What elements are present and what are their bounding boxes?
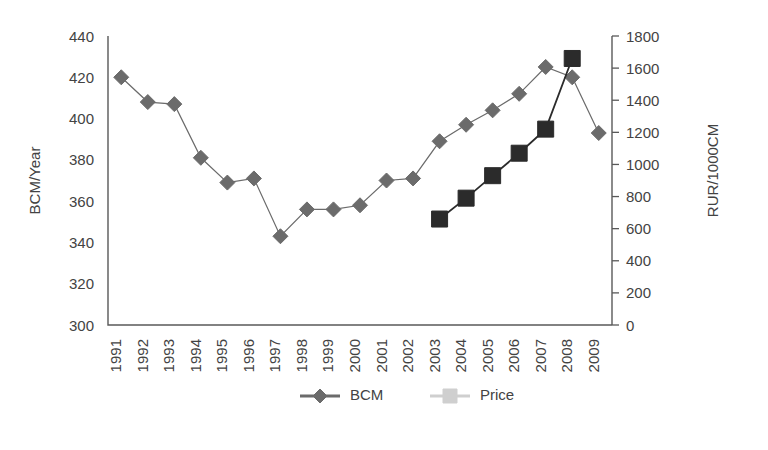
series-price: [432, 50, 581, 227]
x-axis-category-label: 2003: [426, 339, 443, 372]
right-axis-tick-label: 800: [626, 188, 651, 205]
data-point-marker[interactable]: [432, 134, 447, 149]
left-axis-tick-label: 440: [69, 28, 94, 45]
left-axis-tick-label: 320: [69, 275, 94, 292]
x-axis-category-label: 1993: [160, 339, 177, 372]
x-axis-category-label: 1997: [266, 339, 283, 372]
x-axis-category-group: 1991199219931994199519961997199819992000…: [107, 339, 601, 372]
right-axis-tick-label: 1400: [626, 92, 659, 109]
left-axis-spine: [108, 36, 612, 325]
left-axis-tick-group: 300320340360380400420440: [69, 28, 94, 334]
x-axis-category-label: 2002: [399, 339, 416, 372]
chart-container: 300320340360380400420440 020040060080010…: [0, 0, 768, 450]
right-axis-tick-label: 0: [626, 317, 634, 334]
x-axis-category-label: 2000: [346, 339, 363, 372]
data-point-marker[interactable]: [485, 168, 501, 184]
legend-label: Price: [480, 386, 514, 403]
series-bcm: [114, 59, 606, 243]
left-axis-title: BCM/Year: [26, 147, 43, 215]
data-point-marker[interactable]: [591, 126, 606, 141]
series-layer: [114, 50, 606, 243]
right-axis-tick-label: 400: [626, 252, 651, 269]
legend-label: BCM: [350, 386, 383, 403]
x-axis-category-label: 2004: [452, 339, 469, 372]
legend-marker-swatch: [313, 389, 327, 403]
data-point-marker[interactable]: [485, 103, 500, 118]
left-axis-tick-label: 380: [69, 151, 94, 168]
x-axis-category-label: 1992: [134, 339, 151, 372]
right-axis-tick-label: 600: [626, 220, 651, 237]
left-axis-tick-label: 340: [69, 234, 94, 251]
data-point-marker[interactable]: [432, 211, 448, 227]
chart-svg: 300320340360380400420440 020040060080010…: [0, 0, 768, 450]
x-axis-category-label: 1999: [319, 339, 336, 372]
right-axis-tick-label: 1800: [626, 28, 659, 45]
left-axis-tick-label: 300: [69, 317, 94, 334]
right-axis-tick-label: 200: [626, 284, 651, 301]
data-point-marker[interactable]: [246, 171, 261, 186]
left-axis-tick-label: 400: [69, 110, 94, 127]
x-axis-category-label: 2007: [532, 339, 549, 372]
left-axis-tick-label: 420: [69, 69, 94, 86]
data-point-marker[interactable]: [459, 117, 474, 132]
x-axis-category-label: 1996: [240, 339, 257, 372]
data-point-marker[interactable]: [538, 121, 554, 137]
right-axis-tick-label: 1200: [626, 124, 659, 141]
legend-marker-swatch: [443, 389, 457, 403]
x-axis-category-label: 2009: [585, 339, 602, 372]
data-point-marker[interactable]: [511, 145, 527, 161]
x-axis-category-label: 2008: [558, 339, 575, 372]
legend-item-price[interactable]: Price: [430, 386, 514, 403]
data-point-marker[interactable]: [406, 171, 421, 186]
right-axis-title: RUR/1000CM: [704, 124, 721, 217]
left-axis-tick-label: 360: [69, 193, 94, 210]
data-point-marker[interactable]: [458, 190, 474, 206]
x-axis-category-label: 2005: [479, 339, 496, 372]
chart-legend: BCMPrice: [300, 386, 514, 403]
right-axis-tick-label: 1000: [626, 156, 659, 173]
data-point-marker[interactable]: [167, 97, 182, 112]
x-axis-category-label: 1998: [293, 339, 310, 372]
legend-item-bcm[interactable]: BCM: [300, 386, 383, 403]
x-axis-category-label: 2001: [373, 339, 390, 372]
x-axis-category-label: 1994: [187, 339, 204, 372]
x-axis-category-label: 2006: [505, 339, 522, 372]
x-axis-category-label: 1991: [107, 339, 124, 372]
data-point-marker[interactable]: [564, 50, 580, 66]
x-axis-category-label: 1995: [213, 339, 230, 372]
right-axis-tick-label: 1600: [626, 60, 659, 77]
right-axis-tick-group: 020040060080010001200140016001800: [612, 28, 659, 334]
data-point-marker[interactable]: [326, 202, 341, 217]
